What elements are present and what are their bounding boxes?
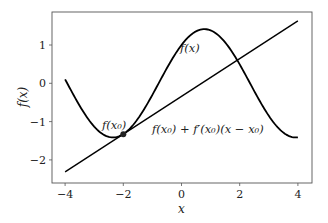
x-tick-label: −4 [57, 188, 73, 201]
x-axis-label: x [178, 202, 185, 216]
chart: 1 0 −1 −2 −4 −2 0 2 4 x f(x) f(x) f(x₀) … [0, 0, 328, 223]
y-axis-label: f(x) [16, 86, 30, 108]
y-tick-label: 0 [39, 77, 46, 90]
annotation-fx: f(x) [179, 41, 200, 55]
tangent-point [120, 131, 126, 137]
x-axis: −4 −2 0 2 4 [57, 183, 301, 201]
y-tick-label: −1 [30, 116, 46, 129]
x-tick-label: 2 [236, 188, 243, 201]
y-tick-label: −2 [30, 154, 46, 167]
y-tick-label: 1 [39, 39, 46, 52]
x-tick-label: −2 [115, 188, 131, 201]
annotation-tangent: f(x₀) + f′(x₀)(x − x₀) [151, 122, 264, 136]
annotation-fx0: f(x₀) [101, 118, 126, 132]
x-tick-label: 0 [178, 188, 185, 201]
x-tick-label: 4 [294, 188, 301, 201]
y-axis: 1 0 −1 −2 [30, 39, 52, 167]
